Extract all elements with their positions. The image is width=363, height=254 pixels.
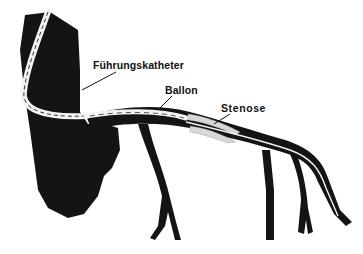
artery-branch-1	[138, 124, 181, 240]
angioplasty-diagram: Führungskatheter Ballon Stenose	[0, 0, 363, 254]
label-guide-catheter: Führungskatheter	[93, 59, 184, 71]
diagram-artwork	[0, 0, 363, 254]
label-stenosis: Stenose	[221, 102, 266, 114]
label-balloon: Ballon	[165, 84, 198, 96]
leader-line-balloon	[160, 96, 172, 108]
artery-branch-2	[262, 150, 274, 240]
leader-line-guide-catheter	[82, 72, 116, 90]
